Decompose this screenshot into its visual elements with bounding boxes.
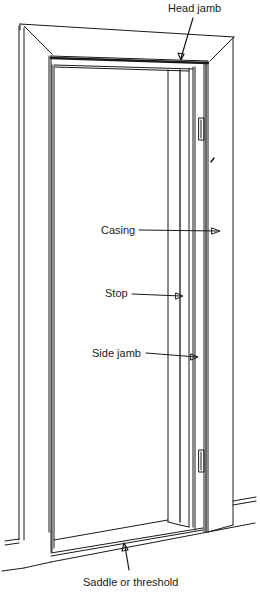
hinge-bottom [199, 450, 204, 472]
label-saddle: Saddle or threshold [83, 576, 178, 588]
tick-mark [211, 158, 214, 162]
door-frame-drawing [0, 0, 260, 597]
arrow-side-jamb [146, 353, 198, 360]
label-stop: Stop [105, 287, 128, 299]
door-frame-diagram: Head jamb Casing Stop Side jamb Saddle o… [0, 0, 260, 597]
baseboard-right [233, 497, 256, 505]
right-jamb [168, 67, 195, 530]
right-casing [204, 38, 233, 532]
head-jamb [51, 56, 208, 71]
arrow-stop [132, 293, 183, 299]
label-head-jamb: Head jamb [168, 2, 221, 14]
arrow-head-jamb [178, 18, 193, 60]
hinge-top [199, 118, 204, 140]
label-side-jamb: Side jamb [92, 347, 141, 359]
head-casing [20, 24, 234, 61]
baseboard-left [5, 539, 19, 545]
left-casing [19, 26, 51, 568]
label-casing: Casing [101, 224, 135, 236]
